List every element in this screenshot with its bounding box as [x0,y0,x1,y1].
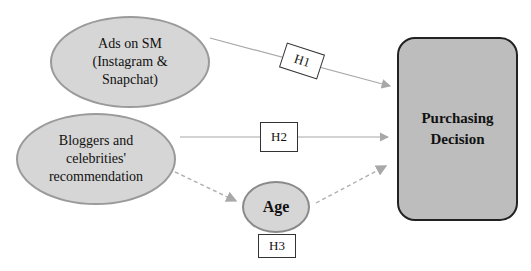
node-purchasing-line-2: Decision [421,129,493,150]
hypothesis-h2-label: H2 [260,122,298,152]
hypothesis-h3-label: H3 [258,234,296,258]
node-age: Age [242,181,310,233]
arrow-age-to-purchasing [316,166,386,203]
h1-text: H1 [292,51,312,71]
node-ads-on-sm: Ads on SM (Instagram & Snapchat) [50,16,210,108]
node-ads-line-3: Snapchat) [92,71,167,89]
node-bloggers-line-1: Bloggers and [49,132,143,150]
arrow-bloggers-to-age [175,172,236,201]
node-purchasing-decision: Purchasing Decision [397,37,518,221]
node-purchasing-line-1: Purchasing [421,108,493,129]
node-age-label: Age [263,197,290,218]
node-ads-line-1: Ads on SM [92,35,167,53]
node-ads-line-2: (Instagram & [92,53,167,71]
node-bloggers: Bloggers and celebrities' recommendation [16,113,176,205]
h3-text: H3 [269,238,285,254]
node-bloggers-line-3: recommendation [49,168,143,186]
node-bloggers-line-2: celebrities' [49,150,143,168]
h2-text: H2 [271,129,287,145]
